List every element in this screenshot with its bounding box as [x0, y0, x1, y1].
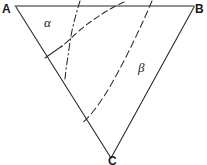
beta-angle-label: β: [137, 60, 145, 75]
alpha-angle-label: α: [44, 15, 52, 30]
angle-tick-segment: [45, 46, 62, 58]
vertex-label-a: A: [2, 2, 11, 16]
vertex-label-b: B: [195, 2, 204, 16]
triangle-diagram-canvas: A B C α β: [0, 0, 207, 165]
triangle-side-ac: [16, 7, 111, 158]
vertex-label-c: C: [108, 154, 117, 165]
triangle-side-bc: [111, 7, 194, 158]
geometry-figure: A B C α β: [0, 0, 207, 165]
dashed-curve-left: [65, 1, 80, 79]
